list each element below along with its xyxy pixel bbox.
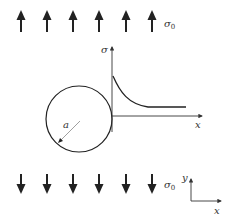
arrow-up-icon — [95, 10, 104, 32]
bottom-load-label: σ0 — [164, 180, 175, 192]
arrow-up-icon — [43, 10, 52, 32]
stress-axis-label: σ — [101, 45, 108, 55]
arrow-up-icon — [69, 10, 78, 32]
sigma-subscript: 0 — [171, 23, 175, 31]
arrow-down-icon — [43, 174, 52, 194]
circular-hole — [46, 86, 112, 152]
arrow-up-icon — [122, 10, 131, 32]
top-load-arrows — [17, 10, 157, 32]
stress-curve — [113, 76, 186, 107]
radius-label: a — [63, 120, 69, 130]
arrow-down-icon — [69, 174, 78, 194]
arrow-down-icon — [95, 174, 104, 194]
arrow-up-icon — [17, 10, 26, 32]
coord-x-label: x — [214, 206, 220, 216]
top-load-label: σ0 — [164, 19, 175, 31]
arrow-down-icon — [17, 174, 26, 194]
bottom-load-arrows — [17, 174, 157, 194]
arrow-down-icon — [122, 174, 131, 194]
diagram-canvas: σ0 σ0 σ x a y x — [0, 0, 234, 224]
arrow-down-icon — [148, 174, 157, 194]
sigma-symbol: σ — [164, 179, 171, 190]
x-axis-label: x — [195, 120, 201, 130]
arrow-up-icon — [148, 10, 157, 32]
diagram-graphics — [0, 0, 234, 224]
sigma-symbol: σ — [164, 18, 171, 29]
sigma-subscript: 0 — [171, 184, 175, 192]
coord-y-label: y — [182, 173, 188, 183]
